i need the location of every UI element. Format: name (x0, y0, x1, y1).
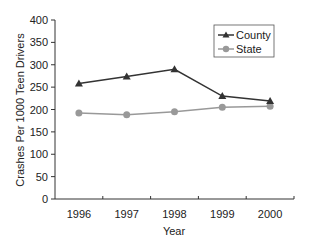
y-tick-label: 50 (36, 171, 48, 183)
x-tick-label: 2000 (258, 208, 282, 220)
x-axis: 19961997199819992000 (55, 196, 294, 220)
line-chart: 050100150200250300350400 199619971998199… (0, 0, 309, 251)
series-county (75, 65, 274, 104)
legend-label-state: State (236, 43, 262, 55)
series-layer (75, 65, 274, 118)
legend: County State (214, 25, 274, 57)
y-tick-label: 350 (30, 36, 48, 48)
circle-marker-icon (75, 110, 82, 117)
circle-marker-icon (123, 111, 130, 118)
legend-label-county: County (236, 29, 271, 41)
y-tick-label: 300 (30, 59, 48, 71)
circle-marker-icon (171, 108, 178, 115)
x-axis-title: Year (163, 225, 186, 237)
x-tick-label: 1999 (210, 208, 234, 220)
series-line (79, 69, 270, 101)
x-tick-label: 1998 (162, 208, 186, 220)
y-axis-title: Crashes Per 1000 Teen Drivers (14, 33, 26, 187)
y-tick-label: 400 (30, 14, 48, 26)
y-tick-label: 100 (30, 148, 48, 160)
triangle-marker-icon (171, 65, 179, 72)
y-tick-label: 200 (30, 104, 48, 116)
y-axis: 050100150200250300350400 (30, 14, 55, 205)
triangle-marker-icon (218, 92, 226, 99)
y-tick-label: 0 (42, 193, 48, 205)
x-tick-label: 1996 (67, 208, 91, 220)
chart-canvas: 050100150200250300350400 199619971998199… (0, 0, 309, 251)
y-tick-label: 150 (30, 126, 48, 138)
y-tick-label: 250 (30, 81, 48, 93)
x-tick-label: 1997 (114, 208, 138, 220)
circle-marker-icon (223, 46, 229, 52)
series-state (75, 103, 273, 119)
circle-marker-icon (219, 104, 226, 111)
